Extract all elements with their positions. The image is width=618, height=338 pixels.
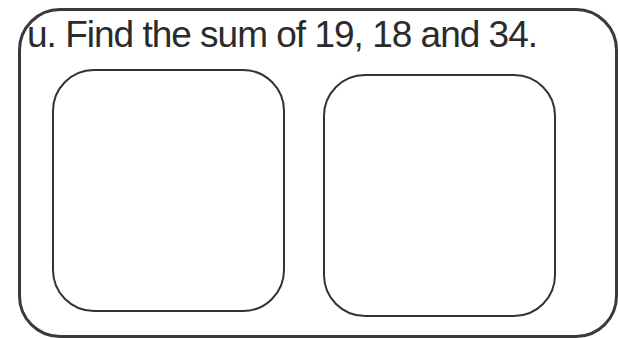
question-text: u. Find the sum of 19, 18 and 34.	[27, 14, 537, 56]
answer-box-2[interactable]	[323, 74, 556, 317]
answer-box-1[interactable]	[52, 69, 285, 312]
